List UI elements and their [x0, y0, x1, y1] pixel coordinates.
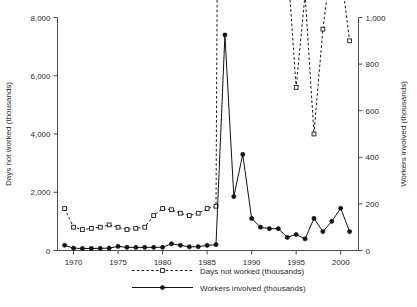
data-point-workers-involved — [63, 243, 67, 247]
data-point-workers-involved — [98, 246, 102, 250]
data-point-days-not-worked — [98, 225, 102, 229]
right-axis-tick-label: 0 — [366, 247, 371, 256]
data-point-days-not-worked — [81, 228, 85, 232]
data-point-workers-involved — [205, 243, 209, 247]
left-axis-tick-label: 6,000 — [30, 72, 51, 81]
data-point-workers-involved — [214, 243, 218, 247]
left-axis-tick-label: 0 — [46, 247, 51, 256]
data-point-days-not-worked — [348, 39, 352, 43]
data-point-workers-involved — [294, 232, 298, 236]
data-point-workers-involved — [241, 152, 245, 156]
data-point-days-not-worked — [89, 226, 93, 230]
data-point-days-not-worked — [205, 207, 209, 211]
left-axis-title: Days not worked (thousands) — [4, 82, 13, 186]
data-point-days-not-worked — [170, 208, 174, 212]
data-point-workers-involved — [339, 206, 343, 210]
data-point-workers-involved — [169, 242, 173, 246]
data-point-days-not-worked — [116, 225, 120, 229]
legend-label-days-not-worked: Days not worked (thousands) — [200, 267, 304, 276]
data-point-workers-involved — [250, 216, 254, 220]
right-axis-tick-label: 200 — [366, 200, 380, 209]
data-point-workers-involved — [223, 33, 227, 37]
data-point-days-not-worked — [134, 226, 138, 230]
data-point-workers-involved — [134, 245, 138, 249]
chart-canvas: 02,0004,0006,0008,00002004006008001,0001… — [0, 0, 417, 307]
strike-statistics-chart: 02,0004,0006,0008,00002004006008001,0001… — [0, 0, 417, 307]
data-point-workers-involved — [312, 216, 316, 220]
right-axis-tick-label: 400 — [366, 153, 380, 162]
data-point-workers-involved — [80, 246, 84, 250]
x-axis-tick-label: 2000 — [332, 258, 350, 267]
series-line-workers-involved — [65, 35, 350, 248]
left-axis-tick-label: 2,000 — [30, 188, 51, 197]
left-axis-tick-label: 4,000 — [30, 130, 51, 139]
data-point-days-not-worked — [312, 132, 316, 136]
data-point-days-not-worked — [63, 207, 67, 211]
data-point-days-not-worked — [161, 207, 165, 211]
data-point-days-not-worked — [143, 225, 147, 229]
left-axis-tick-label: 8,000 — [30, 14, 51, 23]
data-point-workers-involved — [71, 246, 75, 250]
data-point-days-not-worked — [187, 214, 191, 218]
data-point-workers-involved — [303, 237, 307, 241]
legend-marker-days-not-worked — [161, 269, 165, 273]
data-point-workers-involved — [107, 246, 111, 250]
data-point-days-not-worked — [72, 225, 76, 229]
data-point-days-not-worked — [321, 27, 325, 31]
data-point-workers-involved — [232, 195, 236, 199]
x-axis-tick-label: 1995 — [287, 258, 305, 267]
data-point-workers-involved — [330, 219, 334, 223]
series-line-days-not-worked — [65, 0, 350, 230]
data-point-days-not-worked — [178, 211, 182, 215]
x-axis-tick-label: 1985 — [198, 258, 216, 267]
legend-label-workers-involved: Workers involved (thousands) — [200, 284, 306, 293]
legend-marker-workers-involved — [160, 285, 164, 289]
data-point-workers-involved — [178, 243, 182, 247]
data-point-workers-involved — [276, 227, 280, 231]
data-point-workers-involved — [125, 245, 129, 249]
data-point-days-not-worked — [107, 223, 111, 227]
data-point-workers-involved — [116, 244, 120, 248]
data-point-workers-involved — [143, 245, 147, 249]
data-point-workers-involved — [258, 225, 262, 229]
data-point-days-not-worked — [294, 86, 298, 90]
data-point-workers-involved — [89, 246, 93, 250]
data-point-workers-involved — [160, 245, 164, 249]
data-point-workers-involved — [321, 229, 325, 233]
data-point-workers-involved — [196, 245, 200, 249]
data-point-days-not-worked — [125, 228, 129, 232]
data-point-workers-involved — [347, 229, 351, 233]
data-point-workers-involved — [187, 245, 191, 249]
x-axis-tick-label: 1990 — [243, 258, 261, 267]
data-point-workers-involved — [285, 235, 289, 239]
data-point-workers-involved — [267, 227, 271, 231]
right-axis-tick-label: 800 — [366, 60, 380, 69]
data-point-days-not-worked — [152, 214, 156, 218]
right-axis-tick-label: 600 — [366, 107, 380, 116]
data-point-workers-involved — [152, 245, 156, 249]
x-axis-tick-label: 1970 — [65, 258, 83, 267]
x-axis-tick-label: 1975 — [109, 258, 127, 267]
right-axis-tick-label: 1,000 — [366, 14, 387, 23]
x-axis-tick-label: 1980 — [154, 258, 172, 267]
right-axis-title: Workers involved (thousands) — [399, 81, 408, 187]
data-point-days-not-worked — [196, 211, 200, 215]
